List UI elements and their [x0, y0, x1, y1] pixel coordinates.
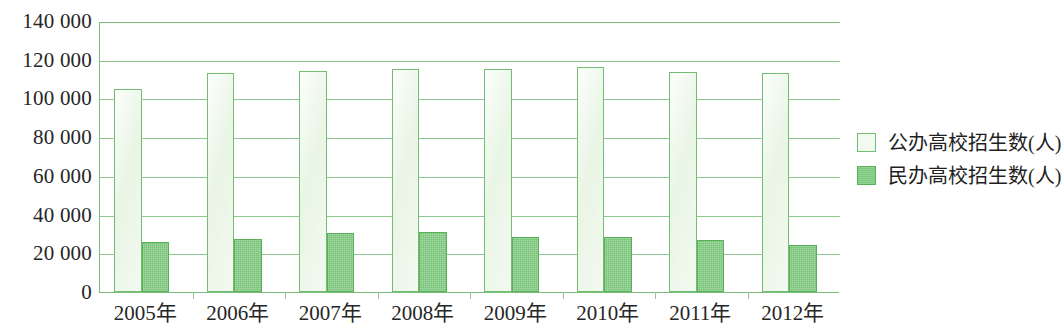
bar-public [762, 73, 790, 292]
legend-item-public[interactable]: 公办高校招生数(人) [857, 126, 1047, 159]
y-axis-tick-label: 100 000 [0, 88, 92, 109]
y-axis-tick-label: 0 [0, 282, 92, 303]
x-axis-tick-label: 2008年 [377, 300, 470, 326]
bar-private [512, 237, 540, 292]
bar-public [207, 73, 235, 292]
bar-public [577, 67, 605, 293]
x-axis-tick-label: 2012年 [747, 300, 840, 326]
x-axis-tick-label: 2006年 [192, 300, 285, 326]
bar-private [142, 242, 170, 292]
bar-private [234, 239, 262, 292]
y-axis-labels: 020 00040 00060 00080 000100 000120 0001… [0, 0, 92, 336]
legend-swatch-private-icon [857, 166, 876, 185]
gridline [100, 22, 840, 23]
bar-private [604, 237, 632, 292]
legend-swatch-public-icon [857, 133, 876, 152]
legend-label-public: 公办高校招生数(人) [888, 133, 1061, 153]
bar-public [392, 69, 420, 292]
bar-public [484, 69, 512, 292]
plot-area [99, 22, 839, 293]
x-axis-labels: 2005年2006年2007年2008年2009年2010年2011年2012年 [99, 300, 839, 336]
x-axis-tick [748, 292, 749, 299]
bar-public [114, 89, 142, 292]
bar-private [419, 232, 447, 292]
gridline [100, 61, 840, 62]
legend-item-private[interactable]: 民办高校招生数(人) [857, 159, 1047, 192]
y-axis-tick-label: 140 000 [0, 11, 92, 32]
x-axis-tick-label: 2007年 [284, 300, 377, 326]
y-axis-tick-label: 120 000 [0, 50, 92, 71]
y-axis-tick-label: 20 000 [0, 243, 92, 264]
x-axis-tick [193, 292, 194, 299]
bar-public [669, 72, 697, 292]
x-axis-tick [378, 292, 379, 299]
bar-private [327, 233, 355, 292]
legend-label-private: 民办高校招生数(人) [888, 166, 1061, 186]
x-axis-tick-label: 2011年 [654, 300, 747, 326]
x-axis-tick-label: 2005年 [99, 300, 192, 326]
bar-public [299, 71, 327, 292]
y-axis-tick-label: 80 000 [0, 127, 92, 148]
bar-private [697, 240, 725, 292]
x-axis-tick-label: 2010年 [562, 300, 655, 326]
x-axis-tick [285, 292, 286, 299]
bar-private [789, 245, 817, 292]
x-axis-tick [563, 292, 564, 299]
x-axis-tick [470, 292, 471, 299]
y-axis-tick-label: 60 000 [0, 166, 92, 187]
x-axis-tick [655, 292, 656, 299]
chart-legend: 公办高校招生数(人) 民办高校招生数(人) [857, 126, 1047, 192]
x-axis-tick-label: 2009年 [469, 300, 562, 326]
y-axis-tick-label: 40 000 [0, 205, 92, 226]
